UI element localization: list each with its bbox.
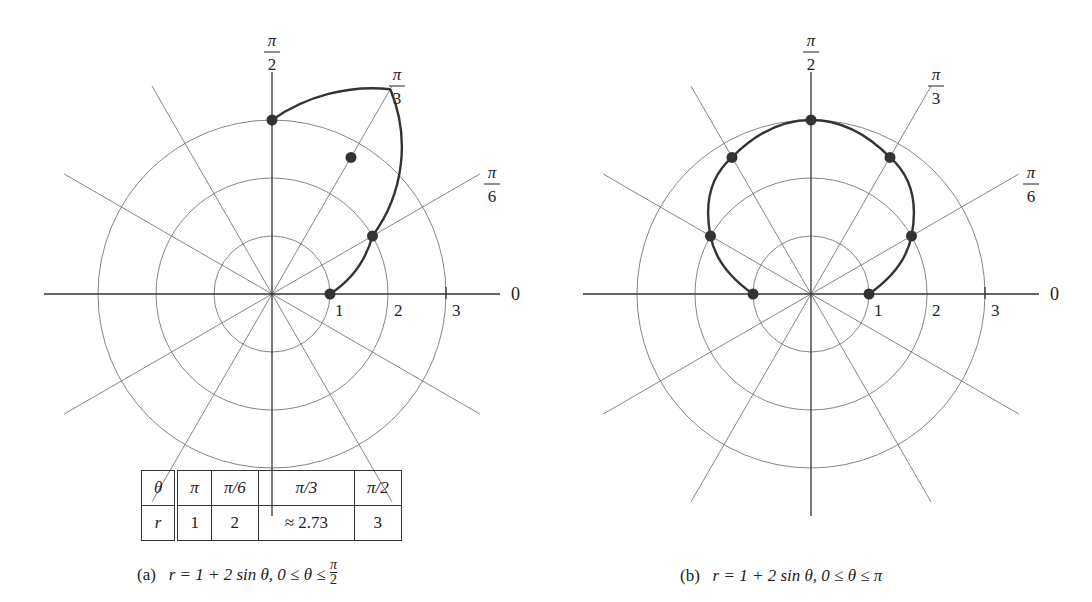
caption-b-prefix: (b) xyxy=(680,566,700,585)
svg-text:6: 6 xyxy=(488,187,497,206)
ring-label-3-a: 3 xyxy=(452,301,461,320)
caption-b: (b) r = 1 + 2 sin θ, 0 ≤ θ ≤ π xyxy=(680,566,882,586)
angle-label-pi-6-a: π 6 xyxy=(484,163,500,206)
angle-label-pi-2-b: π 2 xyxy=(803,31,819,74)
table-cell: π/3 xyxy=(258,471,354,506)
svg-text:π: π xyxy=(932,65,941,84)
svg-text:2: 2 xyxy=(807,55,816,74)
ring-label-2-b: 2 xyxy=(932,301,941,320)
curve-a xyxy=(272,88,402,294)
caption-a-prefix: (a) xyxy=(137,565,156,584)
r-header: r xyxy=(142,506,177,541)
values-table: θ π π/6 π/3 π/2 r 1 2 ≈ 2.73 3 xyxy=(141,470,402,541)
svg-text:π: π xyxy=(393,65,402,84)
table-cell: π/6 xyxy=(211,471,258,506)
table-cell: 2 xyxy=(211,506,258,541)
table-cell: π xyxy=(176,471,211,506)
ring-label-1-b: 1 xyxy=(874,301,883,320)
angle-label-pi-6-b: π 6 xyxy=(1023,163,1039,206)
svg-text:π: π xyxy=(488,163,497,182)
caption-a-equation: r = 1 + 2 sin θ, 0 ≤ θ ≤ xyxy=(169,565,326,584)
table-row-r: r 1 2 ≈ 2.73 3 xyxy=(142,506,402,541)
ring-label-3-b: 3 xyxy=(991,301,1000,320)
svg-text:π: π xyxy=(268,31,277,50)
axes xyxy=(44,72,500,516)
angle-label-pi-3-b: π 3 xyxy=(928,65,944,108)
svg-text:π: π xyxy=(1027,163,1036,182)
theta-header: θ xyxy=(142,471,177,506)
table-row-theta: θ π π/6 π/3 π/2 xyxy=(142,471,402,506)
table-cell: 1 xyxy=(176,506,211,541)
ring-label-2-a: 2 xyxy=(394,301,403,320)
svg-text:3: 3 xyxy=(393,89,402,108)
table-cell: 3 xyxy=(354,506,401,541)
table-cell: ≈ 2.73 xyxy=(258,506,354,541)
polar-plot-b xyxy=(583,72,1039,516)
caption-b-equation: r = 1 + 2 sin θ, 0 ≤ θ ≤ π xyxy=(713,566,883,585)
svg-text:2: 2 xyxy=(268,55,277,74)
angle-label-pi-2-a: π 2 xyxy=(264,31,280,74)
table-cell: π/2 xyxy=(354,471,401,506)
caption-a: (a) r = 1 + 2 sin θ, 0 ≤ θ ≤ π 2 xyxy=(137,562,337,591)
zero-label-b: 0 xyxy=(1050,284,1059,304)
axes xyxy=(583,72,1039,516)
caption-a-limit: π 2 xyxy=(330,558,337,587)
svg-text:6: 6 xyxy=(1027,187,1036,206)
polar-plot-a xyxy=(44,72,500,516)
angle-label-pi-3-a: π 3 xyxy=(389,65,405,108)
zero-label-a: 0 xyxy=(511,284,520,304)
svg-text:π: π xyxy=(807,31,816,50)
ring-label-1-a: 1 xyxy=(335,301,344,320)
svg-text:3: 3 xyxy=(932,89,941,108)
